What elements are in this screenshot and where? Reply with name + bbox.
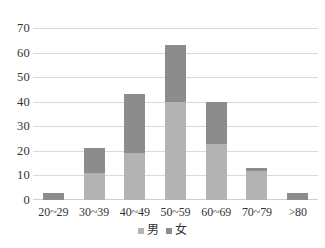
x-axis-tick-20-29: 20~29 <box>33 203 74 223</box>
x-axis-tick-50-59: 50~59 <box>155 203 196 223</box>
y-axis: 70 60 50 40 30 20 10 0 <box>0 28 30 200</box>
legend-label-female: 女 <box>175 224 187 237</box>
y-axis-tick-0: 0 <box>2 194 30 207</box>
y-axis-tick-60: 60 <box>2 47 30 60</box>
x-axis-tick-70-79: 70~79 <box>237 203 278 223</box>
y-axis-tick-10: 10 <box>2 169 30 182</box>
legend-item-male[interactable]: 男 <box>138 224 159 237</box>
legend-label-male: 男 <box>147 224 159 237</box>
bar-segment-female[interactable] <box>287 193 308 200</box>
bar-stack <box>165 45 186 200</box>
legend-swatch-icon-female <box>166 228 172 234</box>
bar-slot-70-79 <box>237 28 278 200</box>
bar-segment-female[interactable] <box>84 148 105 173</box>
chart-legend: 男 女 <box>0 224 325 237</box>
x-axis-tick-40-49: 40~49 <box>114 203 155 223</box>
bar-stack <box>43 193 64 200</box>
bar-stack <box>206 102 227 200</box>
bar-segment-female[interactable] <box>124 94 145 153</box>
y-axis-tick-50: 50 <box>2 71 30 84</box>
y-axis-tick-70: 70 <box>2 22 30 35</box>
x-axis-tick-30-39: 30~39 <box>74 203 115 223</box>
bar-segment-male[interactable] <box>246 171 267 201</box>
bar-segment-female[interactable] <box>206 102 227 144</box>
y-axis-tick-20: 20 <box>2 145 30 158</box>
legend-item-female[interactable]: 女 <box>166 224 187 237</box>
bar-slot-50-59 <box>155 28 196 200</box>
bar-stack <box>287 193 308 200</box>
bar-segment-male[interactable] <box>84 173 105 200</box>
bar-segment-male[interactable] <box>124 153 145 200</box>
y-axis-tick-30: 30 <box>2 120 30 133</box>
bar-segment-female[interactable] <box>165 45 186 102</box>
bar-segment-male[interactable] <box>165 102 186 200</box>
bar-stack <box>246 168 267 200</box>
bar-slot-30-39 <box>74 28 115 200</box>
stacked-bar-chart: 70 60 50 40 30 20 10 0 <box>0 0 325 248</box>
x-axis-tick-over-80: >80 <box>277 203 318 223</box>
bar-slot-over-80 <box>277 28 318 200</box>
bar-segment-female[interactable] <box>43 193 64 200</box>
x-axis: 20~29 30~39 40~49 50~59 60~69 70~79 >80 <box>33 203 318 223</box>
bar-stack <box>84 148 105 200</box>
bar-segment-male[interactable] <box>206 144 227 201</box>
bar-slot-20-29 <box>33 28 74 200</box>
legend-swatch-icon-male <box>138 228 144 234</box>
y-axis-tick-40: 40 <box>2 96 30 109</box>
bar-stack <box>124 94 145 200</box>
bar-slot-40-49 <box>114 28 155 200</box>
bar-slot-60-69 <box>196 28 237 200</box>
x-axis-tick-60-69: 60~69 <box>196 203 237 223</box>
bar-series-container <box>33 28 318 200</box>
